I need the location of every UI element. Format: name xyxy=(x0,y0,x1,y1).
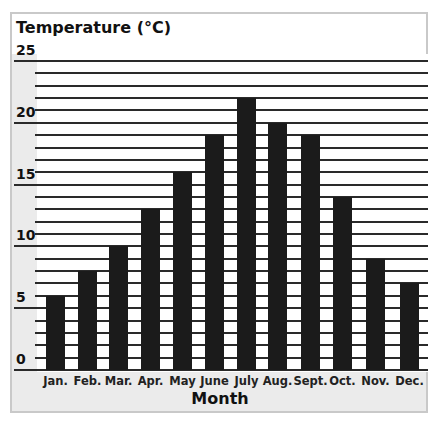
bar xyxy=(268,123,287,370)
bar xyxy=(109,246,128,370)
bar xyxy=(366,259,385,370)
gridline xyxy=(14,122,428,124)
gridline xyxy=(35,159,428,161)
y-tick-label: 15 xyxy=(16,166,46,182)
y-tick-label: 0 xyxy=(16,351,46,367)
gridline xyxy=(35,221,428,223)
y-tick-label: 10 xyxy=(16,227,46,243)
bar xyxy=(333,197,352,370)
gridline xyxy=(35,134,428,136)
bar xyxy=(46,296,65,370)
gridline xyxy=(35,147,428,149)
bar xyxy=(205,135,224,370)
bar xyxy=(78,271,97,370)
gridline xyxy=(35,109,428,111)
y-tick-label: 25 xyxy=(16,42,46,58)
x-tick-label: Dec. xyxy=(390,374,430,388)
gridline xyxy=(14,60,428,62)
bar xyxy=(301,135,320,370)
y-tick-label: 5 xyxy=(16,289,46,305)
y-tick-label: 20 xyxy=(16,104,46,120)
gridline xyxy=(35,72,428,74)
bar xyxy=(173,172,192,370)
gridline xyxy=(35,196,428,198)
gridline xyxy=(35,233,428,235)
bar xyxy=(237,98,256,370)
gridline xyxy=(35,208,428,210)
bar xyxy=(400,283,419,370)
x-axis-title: Month xyxy=(180,389,260,408)
gridline xyxy=(35,85,428,87)
gridline xyxy=(35,171,428,173)
bar xyxy=(141,209,160,370)
gridline xyxy=(35,97,428,99)
y-axis-title: Temperature (°C) xyxy=(16,18,171,37)
